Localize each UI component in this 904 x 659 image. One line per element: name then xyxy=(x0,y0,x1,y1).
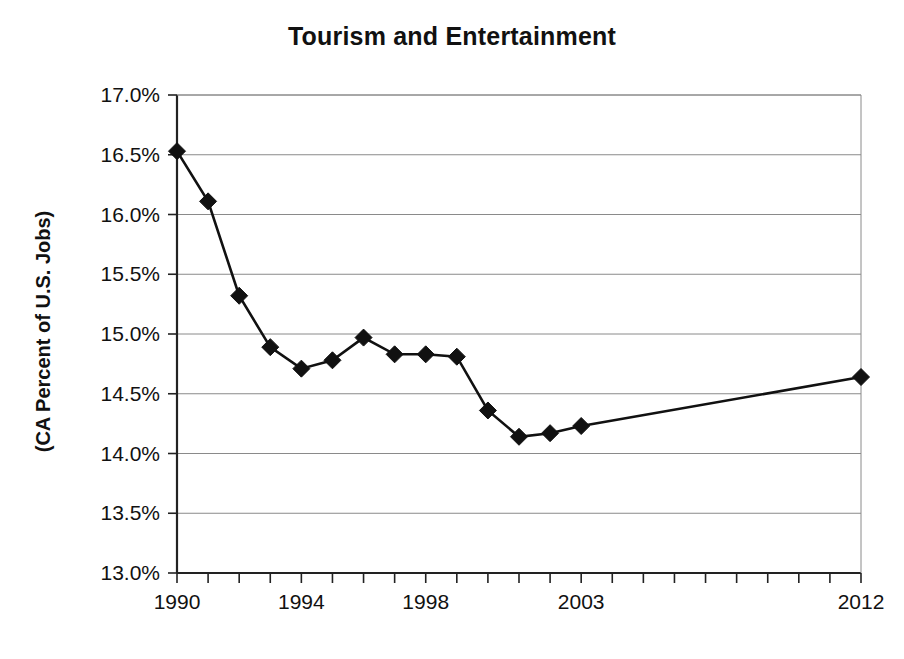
y-tick-label: 14.0% xyxy=(100,442,160,465)
data-point-marker xyxy=(386,346,403,363)
line-chart-plot: 17.0%16.5%16.0%15.5%15.0%14.5%14.0%13.5%… xyxy=(0,0,904,659)
x-tick-label: 2003 xyxy=(558,590,605,613)
y-tick-label: 13.0% xyxy=(100,561,160,584)
y-tick-labels: 17.0%16.5%16.0%15.5%15.0%14.5%14.0%13.5%… xyxy=(100,83,160,584)
gridlines xyxy=(177,95,861,573)
chart-container: Tourism and Entertainment (CA Percent of… xyxy=(0,0,904,659)
data-point-marker xyxy=(231,287,248,304)
y-tick-marks xyxy=(168,95,177,573)
data-point-marker xyxy=(573,418,590,435)
x-tick-label: 1994 xyxy=(278,590,325,613)
data-point-marker xyxy=(200,193,217,210)
data-point-marker xyxy=(417,346,434,363)
x-tick-labels: 19901994199820032012 xyxy=(154,590,885,613)
x-tick-label: 1998 xyxy=(402,590,449,613)
x-tick-label: 1990 xyxy=(154,590,201,613)
data-point-marker xyxy=(542,425,559,442)
data-point-marker xyxy=(293,360,310,377)
x-tick-marks xyxy=(177,573,861,583)
data-point-marker xyxy=(262,339,279,356)
data-point-marker xyxy=(448,348,465,365)
y-tick-label: 16.0% xyxy=(100,203,160,226)
y-tick-label: 17.0% xyxy=(100,83,160,106)
data-point-marker xyxy=(853,369,870,386)
y-tick-label: 16.5% xyxy=(100,143,160,166)
data-point-marker xyxy=(169,143,186,160)
y-tick-label: 13.5% xyxy=(100,501,160,524)
y-tick-label: 15.0% xyxy=(100,322,160,345)
x-tick-label: 2012 xyxy=(838,590,885,613)
data-markers xyxy=(169,143,870,446)
y-tick-label: 14.5% xyxy=(100,382,160,405)
y-tick-label: 15.5% xyxy=(100,262,160,285)
